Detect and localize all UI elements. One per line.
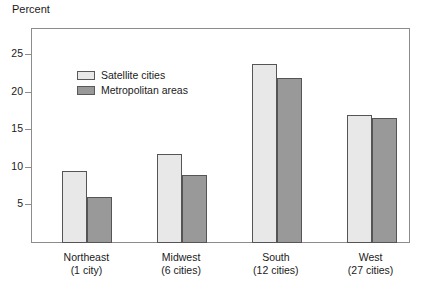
bar-west-satellite-cities: [347, 115, 372, 243]
y-axis-tick-label: 10: [1, 161, 23, 172]
x-axis-group-label-west: West(27 cities): [311, 251, 430, 277]
bar-west-metropolitan-areas: [372, 118, 397, 243]
bar-northeast-metropolitan-areas: [87, 197, 112, 243]
legend-swatch-satellite-cities: [77, 71, 95, 80]
plot-area: Satellite cities Metropolitan areas: [31, 28, 410, 243]
y-axis-title: Percent: [12, 3, 50, 16]
bar-midwest-satellite-cities: [157, 154, 182, 243]
x-axis-category-name: West: [311, 251, 430, 264]
y-axis-tick-label-wrap: 25: [0, 48, 23, 59]
y-axis-tick-label-wrap: 10: [0, 161, 23, 172]
y-axis-tick-label: 15: [1, 123, 23, 134]
x-axis-category-count: (27 cities): [311, 264, 430, 277]
bar-chart: Percent 510152025 Satellite cities Metro…: [0, 0, 430, 290]
y-axis-tick-label-wrap: 20: [0, 86, 23, 97]
bar-midwest-metropolitan-areas: [182, 175, 207, 243]
bar-south-satellite-cities: [252, 64, 277, 243]
bar-south-metropolitan-areas: [277, 78, 302, 243]
y-axis-tick-label-wrap: 15: [0, 123, 23, 134]
y-axis-tick-label: 20: [1, 86, 23, 97]
y-axis-tick-label: 25: [1, 48, 23, 59]
legend-item-metropolitan-areas: Metropolitan areas: [77, 84, 188, 97]
bar-northeast-satellite-cities: [62, 171, 87, 243]
y-axis-tick-label-wrap: 5: [0, 198, 23, 209]
chart-legend: Satellite cities Metropolitan areas: [77, 69, 188, 99]
legend-swatch-metropolitan-areas: [77, 86, 95, 95]
legend-item-satellite-cities: Satellite cities: [77, 69, 188, 82]
y-axis-tick-label: 5: [1, 198, 23, 209]
legend-label-metropolitan-areas: Metropolitan areas: [101, 85, 188, 96]
legend-label-satellite-cities: Satellite cities: [101, 70, 165, 81]
